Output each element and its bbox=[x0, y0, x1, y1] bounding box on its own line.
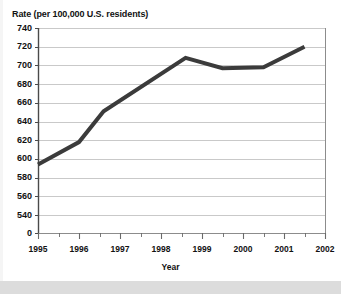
y-tick-label: 720 bbox=[0, 42, 32, 51]
bottom-edge-band bbox=[0, 281, 341, 294]
y-tick-label: 580 bbox=[0, 173, 32, 182]
y-tick-label: 700 bbox=[0, 61, 32, 70]
y-tick-label: 680 bbox=[0, 80, 32, 89]
y-tick-label: 600 bbox=[0, 154, 32, 163]
x-tick-label: 1999 bbox=[185, 245, 219, 254]
y-tick-label: 740 bbox=[0, 24, 32, 33]
y-tick-label: 660 bbox=[0, 98, 32, 107]
x-tick-label: 1998 bbox=[144, 245, 178, 254]
y-tick-label: 640 bbox=[0, 117, 32, 126]
x-tick-label: 2001 bbox=[267, 245, 301, 254]
chart-container: Rate (per 100,000 U.S. residents) 740720… bbox=[0, 0, 341, 294]
x-axis-title: Year bbox=[0, 262, 341, 272]
y-tick-label: 540 bbox=[0, 211, 32, 220]
x-tick-label: 1996 bbox=[62, 245, 96, 254]
x-tick-label: 2002 bbox=[308, 245, 341, 254]
y-tick-label: 560 bbox=[0, 192, 32, 201]
y-tick-label: 620 bbox=[0, 136, 32, 145]
x-tick-label: 2000 bbox=[226, 245, 260, 254]
y-tick-label: 0 bbox=[0, 229, 32, 238]
x-tick-label: 1995 bbox=[21, 245, 55, 254]
x-tick-label: 1997 bbox=[103, 245, 137, 254]
